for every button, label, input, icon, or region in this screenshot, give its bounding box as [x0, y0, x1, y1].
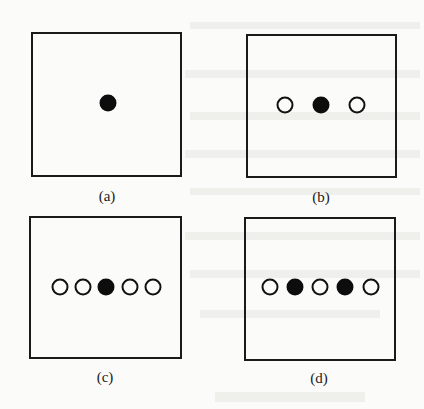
panel-caption-b: (b) [312, 189, 330, 206]
panel-caption-d: (d) [310, 370, 328, 387]
filled-dot-icon [337, 279, 354, 296]
hollow-dot-icon [145, 279, 162, 296]
hollow-dot-icon [122, 279, 139, 296]
hollow-dot-icon [277, 97, 294, 114]
filled-dot-icon [287, 279, 304, 296]
hollow-dot-icon [262, 279, 279, 296]
filled-dot-icon [98, 279, 115, 296]
panel-caption-c: (c) [97, 369, 114, 386]
panel-caption-a: (a) [99, 188, 116, 205]
hollow-dot-icon [363, 279, 380, 296]
filled-dot-icon [100, 95, 117, 112]
hollow-dot-icon [52, 279, 69, 296]
hollow-dot-icon [75, 279, 92, 296]
filled-dot-icon [313, 97, 330, 114]
hollow-dot-icon [349, 97, 366, 114]
hollow-dot-icon [312, 279, 329, 296]
